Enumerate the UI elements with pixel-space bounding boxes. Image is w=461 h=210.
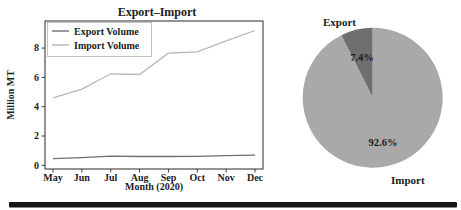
pie-chart: Export Import 7.4% 92.6% (303, 16, 443, 186)
y-axis-label: Million MT (5, 70, 16, 120)
legend-label-export: Export Volume (74, 26, 139, 37)
charts-figure: Export–Import 02468 MayJunJulAugSepOctNo… (0, 0, 461, 210)
x-tick-label: Jun (74, 172, 91, 183)
x-axis-label: Month (2020) (125, 181, 183, 193)
y-tick-label: 0 (34, 160, 39, 171)
pie-label-import: Import (391, 174, 425, 186)
line-chart: Export–Import 02468 MayJunJulAugSepOctNo… (5, 5, 264, 193)
y-tick-label: 6 (34, 72, 39, 83)
y-tick-label: 2 (34, 130, 39, 141)
screenshot-canvas: Export–Import 02468 MayJunJulAugSepOctNo… (0, 0, 461, 210)
y-axis-ticks: 02468 (34, 42, 45, 170)
x-tick-label: May (43, 172, 62, 183)
export-volume-line (53, 155, 255, 159)
legend: Export Volume Import Volume (48, 23, 152, 57)
pie-label-export: Export (323, 16, 356, 28)
x-tick-label: Nov (218, 172, 235, 183)
pie-percent-import: 92.6% (369, 137, 398, 148)
pie-percent-export: 7.4% (350, 52, 374, 63)
line-chart-title: Export–Import (118, 5, 197, 19)
y-tick-label: 4 (34, 101, 39, 112)
x-tick-label: Oct (190, 172, 206, 183)
y-tick-label: 8 (34, 42, 39, 53)
bottom-divider-bar (9, 202, 457, 208)
x-tick-label: Jul (104, 172, 118, 183)
x-tick-label: Dec (247, 172, 264, 183)
legend-label-import: Import Volume (74, 40, 140, 51)
